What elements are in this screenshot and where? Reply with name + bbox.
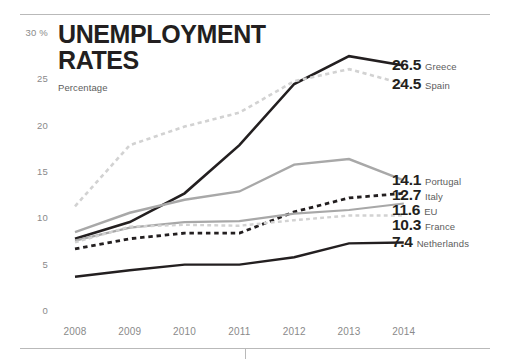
series-line-greece — [75, 56, 404, 239]
end-label-country: Portugal — [425, 177, 461, 187]
end-label-value: 24.5 — [392, 76, 421, 92]
chart-container: UNEMPLOYMENT RATES Percentage 30 %252015… — [0, 0, 510, 359]
end-label-value: 10.3 — [392, 217, 421, 233]
end-label-country: France — [425, 222, 455, 232]
series-line-netherlands — [75, 242, 404, 276]
bottom-divider-rule — [20, 348, 490, 349]
bottom-rule-tick — [245, 348, 246, 359]
end-label-country: Netherlands — [417, 239, 469, 249]
end-label-country: EU — [424, 207, 437, 217]
end-label-value: 7.4 — [392, 234, 413, 250]
end-label-value: 26.5 — [392, 57, 421, 73]
end-label-country: Greece — [425, 62, 457, 72]
end-label-country: Spain — [425, 81, 450, 91]
series-line-spain — [75, 69, 404, 206]
series-line-eu — [75, 204, 404, 241]
end-label-country: Italy — [425, 192, 443, 202]
